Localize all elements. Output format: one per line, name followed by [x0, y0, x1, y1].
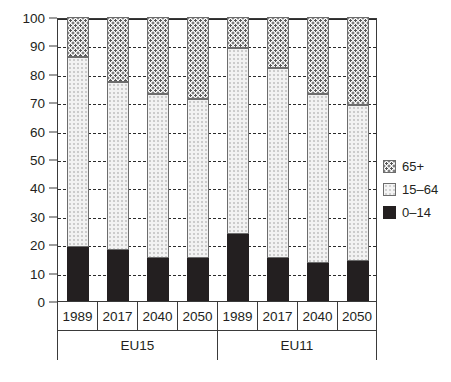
- bar-segment-age-65-plus: [107, 17, 129, 82]
- legend-label: 65+: [402, 159, 424, 174]
- bar-segment-age-0-14: [107, 250, 129, 301]
- y-axis-tick-label: 30: [30, 209, 45, 224]
- plot-area: [57, 18, 377, 302]
- y-axis-tick-label: 90: [30, 39, 45, 54]
- x-axis-year-label: 1989: [217, 302, 257, 330]
- y-axis-tick-mark: [49, 216, 57, 217]
- bar-segment-age-65-plus: [267, 17, 289, 68]
- stacked-bar: [107, 17, 129, 301]
- legend-swatch-icon: [383, 183, 396, 196]
- bar-segment-age-15-64: [187, 99, 209, 258]
- legend-swatch-icon: [383, 206, 396, 219]
- y-axis-tick-mark: [49, 273, 57, 274]
- y-axis: 0102030405060708090100: [0, 0, 57, 320]
- x-axis-year-row: 19892017204020501989201720402050: [57, 302, 377, 331]
- stacked-bar: [267, 17, 289, 301]
- y-axis-tick-label: 0: [37, 295, 45, 310]
- stacked-bar: [187, 17, 209, 301]
- bar-segment-age-65-plus: [307, 17, 329, 94]
- y-axis-tick-mark: [49, 103, 57, 104]
- bar-segment-age-0-14: [307, 263, 329, 301]
- y-axis-tick-label: 100: [22, 11, 45, 26]
- legend-label: 15–64: [402, 182, 438, 197]
- bar-series-container: [58, 19, 376, 301]
- x-axis-year-label: 2050: [177, 302, 217, 330]
- bar-segment-age-15-64: [347, 105, 369, 261]
- y-axis-tick-mark: [49, 46, 57, 47]
- y-axis-tick-label: 40: [30, 181, 45, 196]
- stacked-bar-chart: 0102030405060708090100 19892017204020501…: [0, 0, 451, 382]
- bar-segment-age-65-plus: [67, 17, 89, 57]
- legend-label: 0–14: [402, 205, 431, 220]
- legend-swatch-icon: [383, 160, 396, 173]
- y-axis-tick-mark: [49, 74, 57, 75]
- x-axis-group-row: EU15EU11: [57, 330, 377, 360]
- y-axis-tick-mark: [49, 18, 57, 19]
- stacked-bar: [347, 17, 369, 301]
- bar-segment-age-0-14: [187, 258, 209, 301]
- bar-segment-age-0-14: [347, 261, 369, 301]
- bar-segment-age-0-14: [267, 258, 289, 301]
- y-axis-tick-label: 60: [30, 124, 45, 139]
- x-axis-year-label: 1989: [57, 302, 97, 330]
- y-axis-tick-mark: [49, 245, 57, 246]
- bar-segment-age-65-plus: [347, 17, 369, 105]
- legend-item: 0–14: [383, 201, 451, 224]
- y-axis-tick-label: 10: [30, 266, 45, 281]
- y-axis-tick-label: 80: [30, 67, 45, 82]
- bar-segment-age-15-64: [227, 48, 249, 234]
- y-axis-tick-mark: [49, 131, 57, 132]
- bar-segment-age-0-14: [147, 258, 169, 301]
- bar-segment-age-15-64: [267, 68, 289, 258]
- legend: 65+15–640–14: [383, 155, 451, 224]
- bar-segment-age-0-14: [227, 234, 249, 301]
- x-axis-group-label: EU11: [217, 330, 377, 360]
- stacked-bar: [227, 17, 249, 301]
- x-axis-year-label: 2017: [97, 302, 137, 330]
- x-axis-year-label: 2040: [297, 302, 337, 330]
- bar-segment-age-15-64: [307, 94, 329, 263]
- x-axis-year-label: 2040: [137, 302, 177, 330]
- legend-item: 15–64: [383, 178, 451, 201]
- bar-segment-age-15-64: [67, 57, 89, 247]
- bar-segment-age-65-plus: [147, 17, 169, 94]
- y-axis-tick-label: 70: [30, 96, 45, 111]
- x-axis-year-label: 2017: [257, 302, 297, 330]
- stacked-bar: [147, 17, 169, 301]
- y-axis-tick-label: 50: [30, 153, 45, 168]
- bar-segment-age-65-plus: [227, 17, 249, 48]
- y-axis-tick-mark: [49, 188, 57, 189]
- y-axis-tick-mark: [49, 160, 57, 161]
- y-axis-tick-mark: [49, 302, 57, 303]
- x-axis-year-label: 2050: [337, 302, 377, 330]
- stacked-bar: [67, 17, 89, 301]
- bar-segment-age-0-14: [67, 247, 89, 301]
- stacked-bar: [307, 17, 329, 301]
- x-axis: 19892017204020501989201720402050 EU15EU1…: [57, 302, 377, 360]
- bar-segment-age-65-plus: [187, 17, 209, 99]
- y-axis-tick-label: 20: [30, 238, 45, 253]
- bar-segment-age-15-64: [147, 94, 169, 259]
- x-axis-group-label: EU15: [57, 330, 217, 360]
- bar-segment-age-15-64: [107, 82, 129, 250]
- legend-item: 65+: [383, 155, 451, 178]
